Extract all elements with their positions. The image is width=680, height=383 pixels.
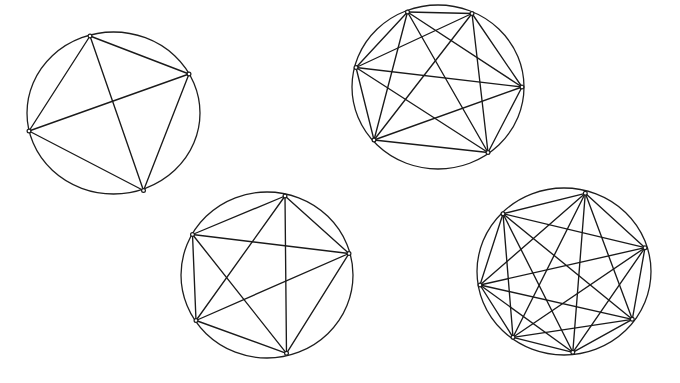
- graph-edge: [513, 193, 585, 337]
- graph-vertex: [583, 191, 587, 195]
- graph-vertex: [187, 72, 191, 76]
- graph-edge: [29, 74, 189, 131]
- graph-edge: [374, 12, 408, 140]
- graph-vertex: [372, 138, 376, 142]
- graph-vertex: [142, 189, 146, 193]
- graph-vertex: [511, 335, 515, 339]
- graph-vertex: [486, 151, 490, 155]
- graph-vertex: [501, 212, 505, 216]
- graph-edge: [193, 235, 287, 354]
- graph-vertex: [630, 317, 634, 321]
- graph-edge: [374, 87, 522, 140]
- graph-vertex: [478, 283, 482, 287]
- graph-edge: [356, 14, 472, 68]
- graph-vertex: [571, 350, 575, 354]
- graph-vertex: [194, 319, 198, 323]
- graph-k7: [477, 188, 651, 355]
- graph-vertex: [27, 129, 31, 133]
- graph-edge: [285, 196, 349, 254]
- graph-edge: [573, 248, 645, 353]
- graph-edge: [196, 254, 349, 321]
- graph-edge: [503, 214, 513, 338]
- graph-vertex: [285, 351, 289, 355]
- graph-k4: [27, 32, 200, 194]
- graph-vertex: [406, 10, 410, 14]
- graph-k6: [352, 5, 524, 169]
- graph-vertex: [354, 66, 358, 70]
- complete-graphs-figure: [0, 0, 680, 383]
- graph-edge: [285, 196, 287, 353]
- graph-edge: [480, 248, 645, 285]
- graph-vertex: [88, 34, 92, 38]
- graph-edge: [585, 193, 645, 247]
- graph-k5: [181, 192, 353, 358]
- graph-edge: [287, 254, 350, 354]
- graph-vertex: [643, 246, 647, 250]
- graph-vertex: [283, 194, 287, 198]
- graph-edge: [193, 235, 350, 254]
- circumscribed-circle: [181, 192, 353, 358]
- graph-edge: [356, 68, 374, 141]
- graph-edge: [144, 74, 190, 191]
- graph-edge: [193, 235, 197, 321]
- graph-vertex: [470, 12, 474, 16]
- graph-edge: [480, 285, 513, 337]
- graph-vertex: [191, 233, 195, 237]
- graph-vertex: [347, 252, 351, 256]
- graph-edge: [632, 248, 645, 320]
- graph-vertex: [520, 85, 524, 89]
- graph-edge: [408, 12, 473, 14]
